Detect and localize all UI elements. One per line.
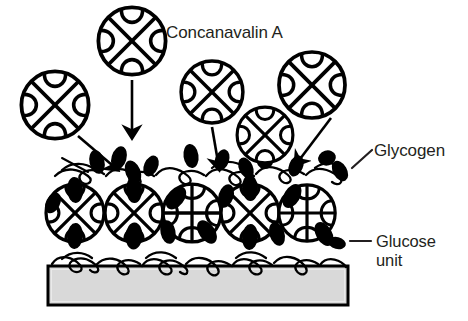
- conA-free-lower-mid: [237, 107, 293, 163]
- arrow-mid-right-down: [212, 127, 218, 162]
- conA-free-mid-right: [181, 61, 243, 123]
- concanavalin-glycogen-diagram: Concanavalin A Glycogen Glucose unit: [0, 0, 468, 321]
- leader-lines: [350, 150, 372, 241]
- conA-free-top: [98, 7, 165, 74]
- conA-free-right: [279, 52, 345, 118]
- label-concanavalin-a: Concanavalin A: [166, 23, 283, 42]
- label-glucose-unit-line2: unit: [376, 251, 403, 269]
- label-glucose-unit-line1: Glucose: [376, 232, 436, 250]
- glucose-units-upper: [87, 143, 352, 186]
- diagram-root: Concanavalin A Glycogen Glucose unit: [0, 0, 468, 321]
- leader-line-glycogen: [352, 150, 372, 168]
- label-glycogen: Glycogen: [374, 141, 445, 160]
- conA-free-left: [21, 71, 88, 138]
